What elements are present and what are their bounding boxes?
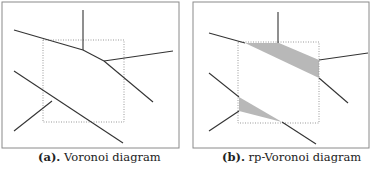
voronoi-edge-b (209, 111, 239, 131)
voronoi-edge-a (14, 71, 123, 143)
voronoi-edge-a (104, 61, 153, 102)
caption-a-text: Voronoi diagram (64, 150, 161, 164)
voronoi-edge-b (319, 53, 368, 60)
caption-a-label: (a). (38, 150, 60, 164)
voronoi-edge-b (319, 78, 348, 103)
voronoi-edge-b (282, 122, 316, 144)
panel-frame-a (2, 2, 179, 148)
caption-b-text: rp-Voronoi diagram (249, 150, 362, 164)
shaded-region-b (239, 97, 282, 122)
voronoi-edge-a (14, 30, 83, 50)
caption-a: (a). Voronoi diagram (38, 150, 161, 164)
voronoi-edge-b (209, 73, 239, 97)
voronoi-edge-a (83, 50, 104, 61)
caption-b: (b). rp-Voronoi diagram (222, 150, 361, 164)
caption-b-label: (b). (222, 150, 245, 164)
panel-frame-b (193, 2, 369, 148)
voronoi-edge-a (14, 101, 52, 131)
shaded-region-b (245, 43, 319, 78)
dotted-window-a (43, 40, 124, 122)
voronoi-edge-b (209, 33, 245, 43)
voronoi-edge-a (104, 51, 173, 61)
voronoi-figure (0, 0, 373, 171)
